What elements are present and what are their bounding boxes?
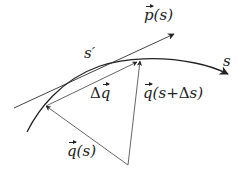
position-vector-q-s-plus-ds — [128, 61, 140, 165]
diagram-canvas — [0, 0, 240, 176]
label-s-prime: s′ — [84, 46, 95, 61]
arg-s: (s) — [77, 142, 96, 160]
vector-arrow-q: q — [143, 86, 153, 101]
label-s: s — [223, 54, 231, 69]
label-q-of-s: q(s) — [67, 144, 96, 159]
label-p-of-s: p(s) — [144, 8, 173, 23]
arg-s: (s) — [154, 6, 173, 24]
arg-open: (s+ — [153, 84, 179, 102]
label-q-s-plus-ds: q(s+Δs) — [143, 86, 203, 101]
delta-symbol: Δ — [179, 84, 190, 102]
vector-arrow-p: p — [144, 8, 154, 23]
vector-arrow-q: q — [101, 86, 111, 101]
delta-symbol: Δ — [90, 84, 101, 102]
arg-close: s) — [190, 84, 204, 102]
vector-arrow-q: q — [67, 144, 77, 159]
label-delta-q: Δq — [90, 86, 110, 101]
